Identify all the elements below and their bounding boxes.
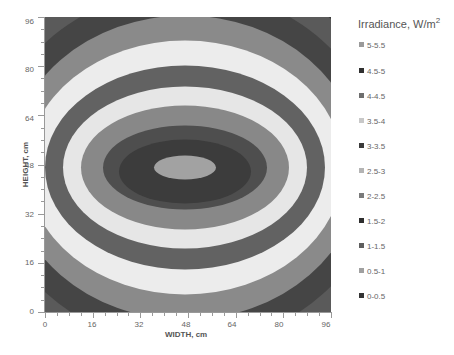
y-tick-label: 64 (14, 114, 34, 123)
y-tick-label: 80 (14, 65, 34, 74)
legend-swatch (359, 93, 364, 98)
y-tick (38, 263, 44, 264)
legend-label: 0.5-1 (367, 267, 385, 276)
x-tick (260, 313, 261, 316)
x-tick (117, 313, 118, 316)
y-tick (41, 275, 44, 276)
y-tick-label: 96 (14, 17, 34, 26)
x-tick-label: 96 (316, 320, 336, 329)
y-tick (41, 287, 44, 288)
legend-swatch (359, 243, 364, 248)
x-tick (319, 313, 320, 316)
y-tick-label: 32 (14, 210, 34, 219)
y-tick (41, 91, 44, 92)
x-tick (295, 313, 296, 316)
x-tick (224, 313, 225, 316)
x-axis-title: WIDTH, cm (165, 330, 207, 339)
y-tick (41, 140, 44, 141)
y-axis-line (44, 17, 45, 313)
y-axis-title: HEIGHT, cm (21, 135, 30, 195)
legend-title: Irradiance, W/m2 (358, 16, 440, 30)
legend-label: 4-4.5 (367, 92, 385, 101)
y-tick (41, 152, 44, 153)
y-tick (41, 177, 44, 178)
legend-item: 5-5.5 (359, 41, 385, 51)
legend-item: 4.5-5 (359, 67, 385, 77)
x-tick (307, 313, 308, 316)
legend-label: 4.5-5 (367, 67, 385, 76)
x-tick (188, 313, 189, 318)
y-tick (38, 214, 44, 215)
legend-label: 2.5-3 (367, 167, 385, 176)
x-tick (81, 313, 82, 316)
x-tick (200, 313, 201, 316)
legend-swatch (359, 218, 364, 223)
x-tick (331, 313, 332, 318)
x-tick (236, 313, 237, 318)
legend-item: 0-0.5 (359, 292, 385, 302)
legend-swatch (359, 168, 364, 173)
x-tick-label: 48 (176, 320, 196, 329)
legend-label: 2-2.5 (367, 192, 385, 201)
x-tick (176, 313, 177, 316)
x-tick (212, 313, 213, 316)
legend-item: 3-3.5 (359, 142, 385, 152)
y-tick (41, 54, 44, 55)
x-tick (45, 313, 46, 318)
legend-label: 3-3.5 (367, 142, 385, 151)
x-tick (248, 313, 249, 316)
y-tick (38, 165, 44, 166)
y-tick (41, 42, 44, 43)
contour-surface (45, 17, 331, 312)
legend-swatch (359, 268, 364, 273)
x-tick (271, 313, 272, 316)
legend-item: 1-1.5 (359, 242, 385, 252)
legend-item: 1.5-2 (359, 217, 385, 227)
y-tick (41, 300, 44, 301)
y-tick (38, 66, 44, 67)
legend-title-text: Irradiance, W/m (358, 18, 436, 30)
legend-item: 4-4.5 (359, 92, 385, 102)
x-tick (140, 313, 141, 318)
x-tick-label: 16 (82, 320, 102, 329)
x-tick-label: 64 (222, 320, 242, 329)
y-tick (41, 189, 44, 190)
x-tick (105, 313, 106, 316)
legend-item: 2.5-3 (359, 167, 385, 177)
y-tick (38, 17, 44, 18)
x-tick (152, 313, 153, 316)
x-tick-label: 80 (269, 320, 289, 329)
legend-title-superscript: 2 (436, 16, 440, 25)
y-tick (41, 201, 44, 202)
y-tick (38, 115, 44, 116)
y-tick-label: 0 (14, 307, 34, 316)
legend-swatch (359, 143, 364, 148)
legend-swatch (359, 42, 364, 47)
x-tick-label: 0 (35, 320, 55, 329)
x-tick (283, 313, 284, 318)
legend-label: 5-5.5 (367, 41, 385, 50)
y-tick (41, 238, 44, 239)
y-tick (41, 29, 44, 30)
x-tick (93, 313, 94, 318)
x-tick (164, 313, 165, 316)
legend-label: 1-1.5 (367, 242, 385, 251)
y-tick-label: 16 (14, 258, 34, 267)
legend-label: 3.5-4 (367, 117, 385, 126)
legend-label: 1.5-2 (367, 217, 385, 226)
y-tick (41, 128, 44, 129)
legend-swatch (359, 293, 364, 298)
legend-swatch (359, 118, 364, 123)
y-tick (41, 78, 44, 79)
x-tick (128, 313, 129, 316)
x-tick (57, 313, 58, 316)
x-tick (69, 313, 70, 316)
y-tick (41, 226, 44, 227)
legend-swatch (359, 193, 364, 198)
contour-chart: 96 80 64 48 32 16 0 0 16 32 48 64 80 96 … (0, 0, 454, 355)
y-tick (41, 103, 44, 104)
y-tick (38, 312, 44, 313)
contour-band (154, 156, 216, 180)
legend-item: 2-2.5 (359, 192, 385, 202)
plot-area (45, 17, 331, 312)
